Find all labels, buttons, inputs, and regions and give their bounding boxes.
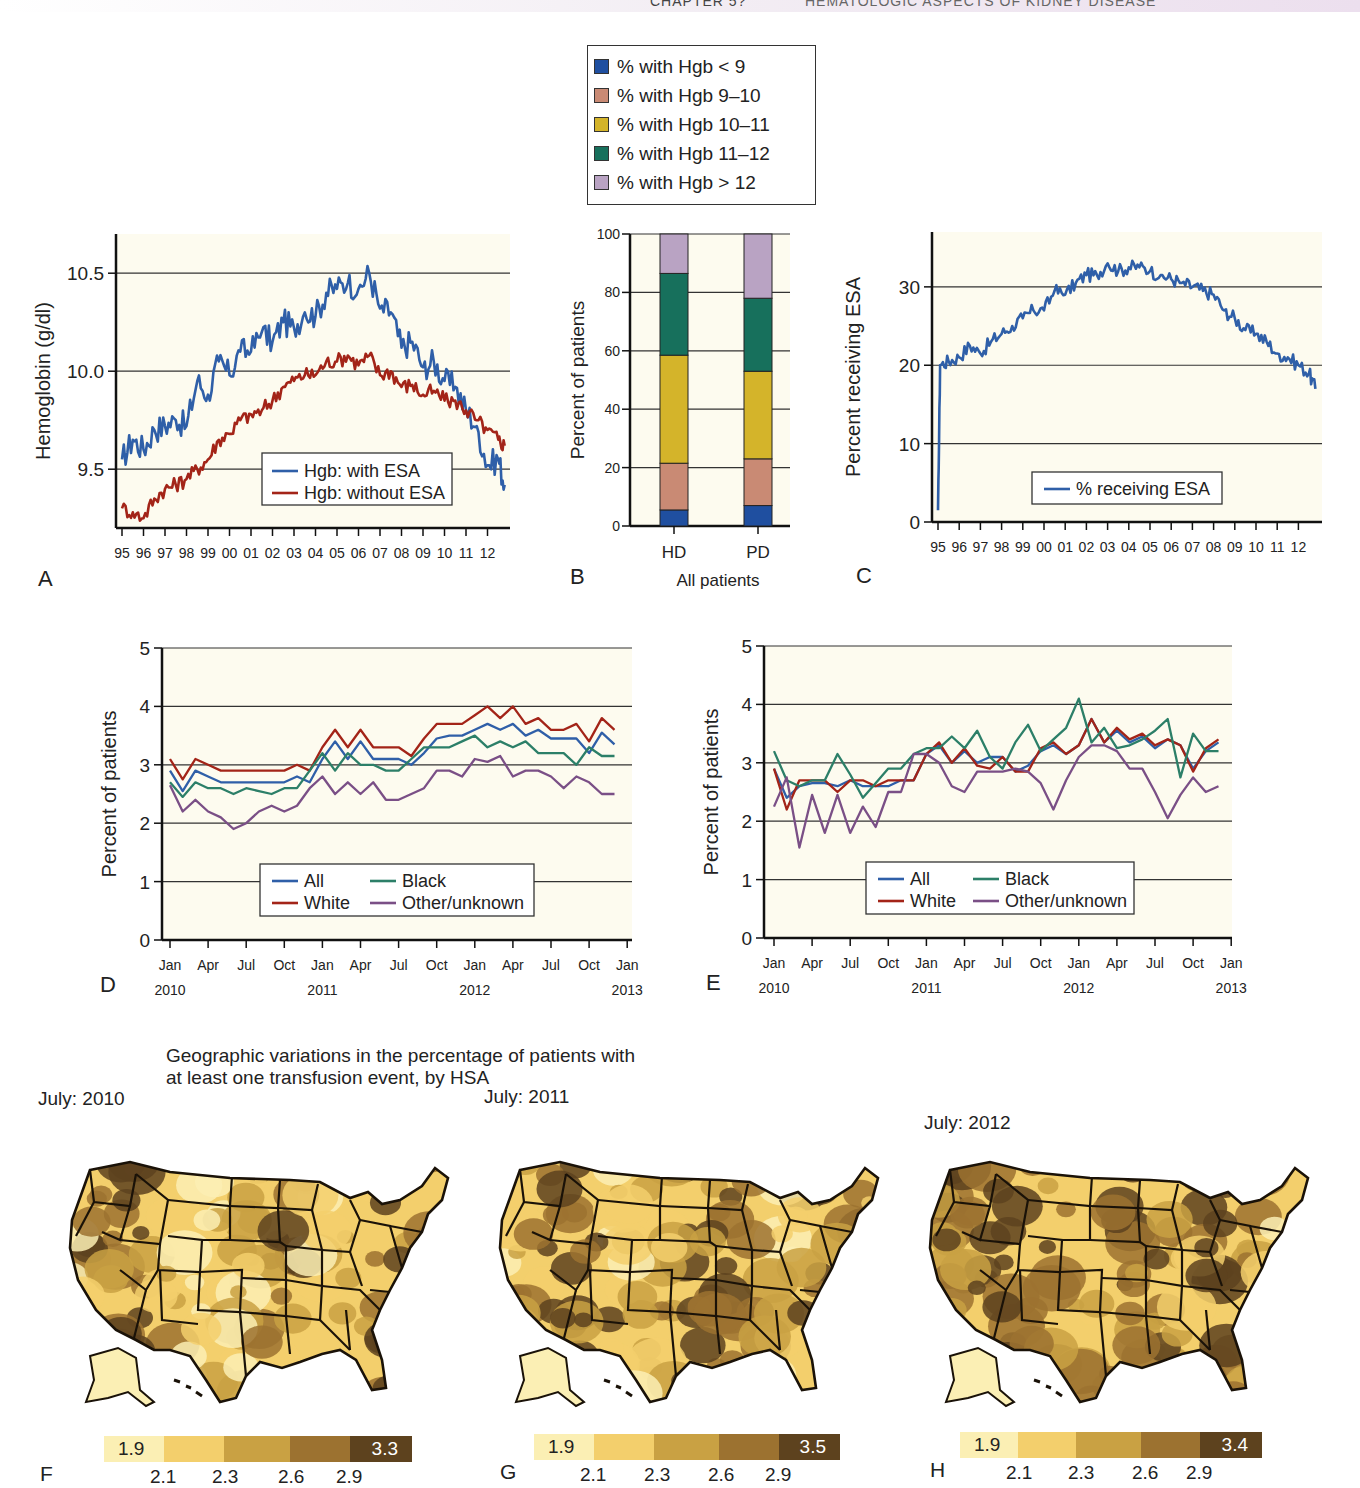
x-year-label: 2012 bbox=[1063, 980, 1094, 996]
x-tick-label: Jul bbox=[841, 955, 859, 971]
scale-bin bbox=[1018, 1432, 1076, 1458]
scale-max-label: 3.4 bbox=[1200, 1432, 1262, 1458]
y-tick-label: 2 bbox=[741, 811, 752, 832]
x-tick-label: 99 bbox=[1015, 539, 1031, 555]
panel-letter: B bbox=[570, 564, 585, 589]
x-tick-label: 12 bbox=[480, 545, 496, 561]
x-tick-label: Apr bbox=[502, 957, 524, 973]
x-tick-label: 10 bbox=[437, 545, 453, 561]
panel-letter: C bbox=[856, 563, 872, 588]
scale-ticks-h: 2.1 2.3 2.6 2.9 bbox=[1006, 1462, 1246, 1484]
scale-bin bbox=[1076, 1432, 1141, 1458]
color-scale-g: 1.9 3.5 bbox=[534, 1434, 840, 1460]
legend-label: All bbox=[910, 869, 930, 889]
chart-a-hemoglobin: 9.510.010.5Hemoglobin (g/dl)959697989900… bbox=[0, 220, 560, 600]
panel-letter-g: G bbox=[500, 1460, 516, 1484]
hawaii-shape bbox=[604, 1380, 632, 1396]
scale-min-label: 1.9 bbox=[534, 1434, 594, 1460]
x-year-label: 2013 bbox=[612, 982, 643, 998]
y-tick-label: 100 bbox=[597, 226, 621, 242]
x-tick-label: Jul bbox=[390, 957, 408, 973]
x-tick-label: 98 bbox=[994, 539, 1010, 555]
y-tick-label: 80 bbox=[604, 284, 620, 300]
x-tick-label: Jan bbox=[1068, 955, 1091, 971]
legend-label: Hgb: with ESA bbox=[304, 461, 420, 481]
x-tick-label: Apr bbox=[350, 957, 372, 973]
chart-legend: AllBlackWhiteOther/unknown bbox=[866, 862, 1134, 914]
chapter-title: HEMATOLOGIC ASPECTS OF KIDNEY DISEASE bbox=[805, 0, 1156, 9]
x-tick-label: Oct bbox=[1030, 955, 1052, 971]
y-tick-label: 9.5 bbox=[78, 459, 104, 480]
x-tick-label: Jan bbox=[763, 955, 786, 971]
scale-ticks-g: 2.1 2.3 2.6 2.9 bbox=[580, 1464, 820, 1486]
x-tick-label: Jan bbox=[159, 957, 182, 973]
legend-item-hgb-lt9: % with Hgb < 9 bbox=[594, 52, 815, 81]
y-tick-label: 40 bbox=[604, 401, 620, 417]
x-tick-label: 04 bbox=[1121, 539, 1137, 555]
x-tick-label: Oct bbox=[273, 957, 295, 973]
x-tick-label: 98 bbox=[179, 545, 195, 561]
panel-letter: E bbox=[706, 970, 721, 995]
x-tick-label: 01 bbox=[243, 545, 259, 561]
scale-bin bbox=[654, 1434, 719, 1460]
x-tick-label: Jan bbox=[616, 957, 639, 973]
x-tick-label: 07 bbox=[372, 545, 388, 561]
chart-d-transfusion-by-race: 012345Percent of patientsJanAprJulOctJan… bbox=[80, 630, 680, 1010]
legend-hgb-categories: % with Hgb < 9 % with Hgb 9–10 % with Hg… bbox=[587, 45, 816, 205]
x-tick-label: 11 bbox=[1270, 539, 1285, 555]
x-tick-label: Jul bbox=[542, 957, 560, 973]
x-tick-label: 03 bbox=[1100, 539, 1116, 555]
bar-segment bbox=[660, 510, 688, 526]
y-tick-label: 1 bbox=[741, 870, 752, 891]
scale-bin bbox=[224, 1436, 290, 1462]
hawaii-shape bbox=[174, 1380, 202, 1396]
y-tick-label: 4 bbox=[741, 694, 752, 715]
x-tick-label: 02 bbox=[265, 545, 281, 561]
legend-label: White bbox=[910, 891, 956, 911]
x-tick-label: 97 bbox=[973, 539, 989, 555]
scale-max-label: 3.3 bbox=[350, 1436, 412, 1462]
x-tick-label: Jan bbox=[1220, 955, 1243, 971]
y-tick-label: 0 bbox=[612, 518, 620, 534]
scale-min-label: 1.9 bbox=[104, 1436, 164, 1462]
chart-c-esa-receiving: 0102030Percent receiving ESA959697989900… bbox=[830, 220, 1360, 600]
x-tick-label: 96 bbox=[136, 545, 152, 561]
bar-segment bbox=[660, 273, 688, 355]
x-tick-label: 06 bbox=[1163, 539, 1179, 555]
scale-ticks-f: 2.1 2.3 2.6 2.9 bbox=[150, 1466, 390, 1488]
x-tick-label: 08 bbox=[394, 545, 410, 561]
panel-letter: D bbox=[100, 972, 116, 997]
scale-bin bbox=[164, 1436, 224, 1462]
x-tick-label: 04 bbox=[308, 545, 324, 561]
legend-item-hgb-11-12: % with Hgb 11–12 bbox=[594, 139, 815, 168]
y-tick-label: 20 bbox=[604, 460, 620, 476]
x-tick-label: 06 bbox=[351, 545, 367, 561]
y-tick-label: 1 bbox=[139, 872, 150, 893]
x-tick-label: 95 bbox=[114, 545, 130, 561]
x-tick-label: Jan bbox=[311, 957, 334, 973]
chart-e-transfusion-by-race: 012345Percent of patientsJanAprJulOctJan… bbox=[690, 628, 1290, 1008]
bar-segment bbox=[744, 234, 772, 298]
chart-legend: Hgb: with ESAHgb: without ESA bbox=[262, 453, 452, 505]
y-tick-label: 3 bbox=[139, 755, 150, 776]
x-year-label: 2012 bbox=[459, 982, 490, 998]
x-tick-label: 05 bbox=[1142, 539, 1158, 555]
swatch-icon bbox=[594, 146, 609, 161]
legend-label: White bbox=[304, 893, 350, 913]
x-year-label: 2013 bbox=[1216, 980, 1247, 996]
y-tick-label: 20 bbox=[899, 355, 920, 376]
legend-label: Black bbox=[1005, 869, 1050, 889]
y-tick-label: 5 bbox=[139, 638, 150, 659]
x-year-label: 2011 bbox=[307, 982, 337, 998]
swatch-icon bbox=[594, 117, 609, 132]
x-tick-label: 02 bbox=[1079, 539, 1095, 555]
y-axis-label: Percent of patients bbox=[700, 709, 722, 876]
x-tick-label: 09 bbox=[1227, 539, 1243, 555]
x-tick-label: 95 bbox=[930, 539, 946, 555]
y-axis-label: Percent receiving ESA bbox=[842, 276, 864, 477]
x-tick-label: 03 bbox=[286, 545, 302, 561]
x-tick-label: 00 bbox=[222, 545, 238, 561]
color-scale-f: 1.9 3.3 bbox=[104, 1436, 412, 1462]
map-h-label: July: 2012 bbox=[924, 1112, 1011, 1134]
legend-item-hgb-10-11: % with Hgb 10–11 bbox=[594, 110, 815, 139]
